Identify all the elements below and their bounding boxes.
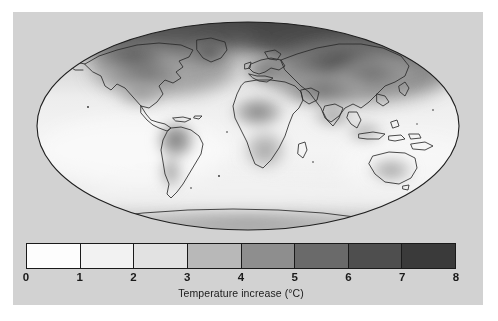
colorbar-segment-7-8 [402, 244, 455, 268]
colorbar-tick-4: 4 [238, 270, 244, 284]
colorbar-segment-4-5 [242, 244, 296, 268]
colorbar-segment-0-1 [27, 244, 81, 268]
colorbar [26, 243, 456, 269]
colorbar-block: 012345678 Temperature increase (°C) [26, 243, 456, 301]
colorbar-tick-labels: 012345678 [26, 270, 456, 286]
colorbar-segment-3-4 [188, 244, 242, 268]
colorbar-tick-6: 6 [345, 270, 351, 284]
world-map-svg [13, 12, 483, 240]
colorbar-segment-6-7 [349, 244, 403, 268]
colorbar-tick-2: 2 [130, 270, 136, 284]
colorbar-axis-label: Temperature increase (°C) [26, 287, 456, 299]
colorbar-tick-1: 1 [77, 270, 83, 284]
colorbar-segment-2-3 [134, 244, 188, 268]
colorbar-tick-0: 0 [23, 270, 29, 284]
figure-container: 012345678 Temperature increase (°C) [0, 0, 498, 321]
colorbar-tick-5: 5 [292, 270, 298, 284]
colorbar-segment-5-6 [295, 244, 349, 268]
map-area [13, 12, 483, 240]
colorbar-segment-1-2 [81, 244, 135, 268]
colorbar-tick-3: 3 [184, 270, 190, 284]
colorbar-tick-7: 7 [399, 270, 405, 284]
colorbar-tick-8: 8 [453, 270, 459, 284]
